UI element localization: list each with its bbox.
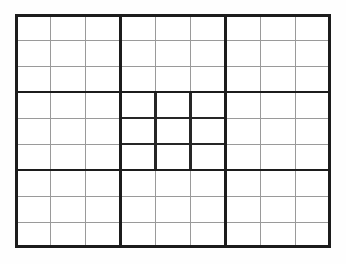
sudoku-cell-r3c9[interactable]	[296, 66, 331, 92]
sudoku-cell-r7c8[interactable]	[261, 170, 296, 196]
sudoku-cell-r5c9[interactable]	[296, 118, 331, 144]
sudoku-cell-r3c5[interactable]	[155, 66, 190, 92]
sudoku-cell-r4c2[interactable]	[50, 92, 85, 118]
sudoku-cell-r6c4[interactable]	[120, 144, 155, 170]
sudoku-cell-r6c1[interactable]	[15, 144, 50, 170]
cell-hit-layer[interactable]	[15, 14, 331, 248]
sudoku-cell-r7c2[interactable]	[50, 170, 85, 196]
sudoku-cell-r7c5[interactable]	[155, 170, 190, 196]
sudoku-cell-r1c3[interactable]	[85, 14, 120, 40]
sudoku-cell-r7c7[interactable]	[226, 170, 261, 196]
sudoku-cell-r1c1[interactable]	[15, 14, 50, 40]
sudoku-cell-r1c5[interactable]	[155, 14, 190, 40]
sudoku-cell-r3c3[interactable]	[85, 66, 120, 92]
sudoku-cell-r4c7[interactable]	[226, 92, 261, 118]
sudoku-cell-r5c5[interactable]	[155, 118, 190, 144]
sudoku-cell-r2c5[interactable]	[155, 40, 190, 66]
sudoku-page	[0, 0, 346, 264]
sudoku-cell-r6c5[interactable]	[155, 144, 190, 170]
sudoku-cell-r8c7[interactable]	[226, 196, 261, 222]
sudoku-cell-r3c4[interactable]	[120, 66, 155, 92]
sudoku-cell-r2c9[interactable]	[296, 40, 331, 66]
sudoku-cell-r6c7[interactable]	[226, 144, 261, 170]
sudoku-cell-r2c8[interactable]	[261, 40, 296, 66]
sudoku-cell-r5c4[interactable]	[120, 118, 155, 144]
sudoku-cell-r1c6[interactable]	[191, 14, 226, 40]
sudoku-cell-r8c2[interactable]	[50, 196, 85, 222]
sudoku-cell-r5c1[interactable]	[15, 118, 50, 144]
sudoku-cell-r9c7[interactable]	[226, 222, 261, 248]
sudoku-cell-r6c9[interactable]	[296, 144, 331, 170]
sudoku-cell-r6c2[interactable]	[50, 144, 85, 170]
sudoku-cell-r8c8[interactable]	[261, 196, 296, 222]
sudoku-cell-r3c6[interactable]	[191, 66, 226, 92]
sudoku-cell-r9c8[interactable]	[261, 222, 296, 248]
sudoku-cell-r8c1[interactable]	[15, 196, 50, 222]
sudoku-cell-r2c7[interactable]	[226, 40, 261, 66]
sudoku-cell-r8c5[interactable]	[155, 196, 190, 222]
sudoku-cell-r2c1[interactable]	[15, 40, 50, 66]
sudoku-cell-r2c6[interactable]	[191, 40, 226, 66]
sudoku-cell-r9c2[interactable]	[50, 222, 85, 248]
sudoku-cell-r4c6[interactable]	[191, 92, 226, 118]
sudoku-cell-r5c3[interactable]	[85, 118, 120, 144]
sudoku-cell-r7c6[interactable]	[191, 170, 226, 196]
sudoku-cell-r8c6[interactable]	[191, 196, 226, 222]
sudoku-cell-r4c5[interactable]	[155, 92, 190, 118]
sudoku-cell-r9c6[interactable]	[191, 222, 226, 248]
sudoku-cell-r1c2[interactable]	[50, 14, 85, 40]
sudoku-cell-r1c7[interactable]	[226, 14, 261, 40]
sudoku-cell-r8c3[interactable]	[85, 196, 120, 222]
sudoku-cell-r9c4[interactable]	[120, 222, 155, 248]
sudoku-cell-r3c8[interactable]	[261, 66, 296, 92]
sudoku-cell-r9c5[interactable]	[155, 222, 190, 248]
sudoku-cell-r9c1[interactable]	[15, 222, 50, 248]
sudoku-cell-r7c9[interactable]	[296, 170, 331, 196]
sudoku-cell-r8c9[interactable]	[296, 196, 331, 222]
sudoku-cell-r4c9[interactable]	[296, 92, 331, 118]
sudoku-cell-r4c1[interactable]	[15, 92, 50, 118]
sudoku-cell-r2c3[interactable]	[85, 40, 120, 66]
sudoku-cell-r2c4[interactable]	[120, 40, 155, 66]
sudoku-cell-r6c3[interactable]	[85, 144, 120, 170]
sudoku-cell-r3c2[interactable]	[50, 66, 85, 92]
sudoku-cell-r6c6[interactable]	[191, 144, 226, 170]
sudoku-cell-r3c7[interactable]	[226, 66, 261, 92]
sudoku-cell-r5c8[interactable]	[261, 118, 296, 144]
sudoku-grid[interactable]	[15, 14, 331, 248]
sudoku-cell-r7c4[interactable]	[120, 170, 155, 196]
sudoku-cell-r5c2[interactable]	[50, 118, 85, 144]
sudoku-cell-r4c3[interactable]	[85, 92, 120, 118]
sudoku-cell-r1c9[interactable]	[296, 14, 331, 40]
sudoku-cell-r5c7[interactable]	[226, 118, 261, 144]
sudoku-cell-r6c8[interactable]	[261, 144, 296, 170]
sudoku-cell-r1c4[interactable]	[120, 14, 155, 40]
sudoku-cell-r7c3[interactable]	[85, 170, 120, 196]
sudoku-cell-r3c1[interactable]	[15, 66, 50, 92]
sudoku-cell-r7c1[interactable]	[15, 170, 50, 196]
sudoku-cell-r9c3[interactable]	[85, 222, 120, 248]
sudoku-cell-r4c8[interactable]	[261, 92, 296, 118]
sudoku-cell-r8c4[interactable]	[120, 196, 155, 222]
sudoku-cell-r5c6[interactable]	[191, 118, 226, 144]
sudoku-cell-r9c9[interactable]	[296, 222, 331, 248]
sudoku-cell-r1c8[interactable]	[261, 14, 296, 40]
sudoku-cell-r2c2[interactable]	[50, 40, 85, 66]
sudoku-cell-r4c4[interactable]	[120, 92, 155, 118]
